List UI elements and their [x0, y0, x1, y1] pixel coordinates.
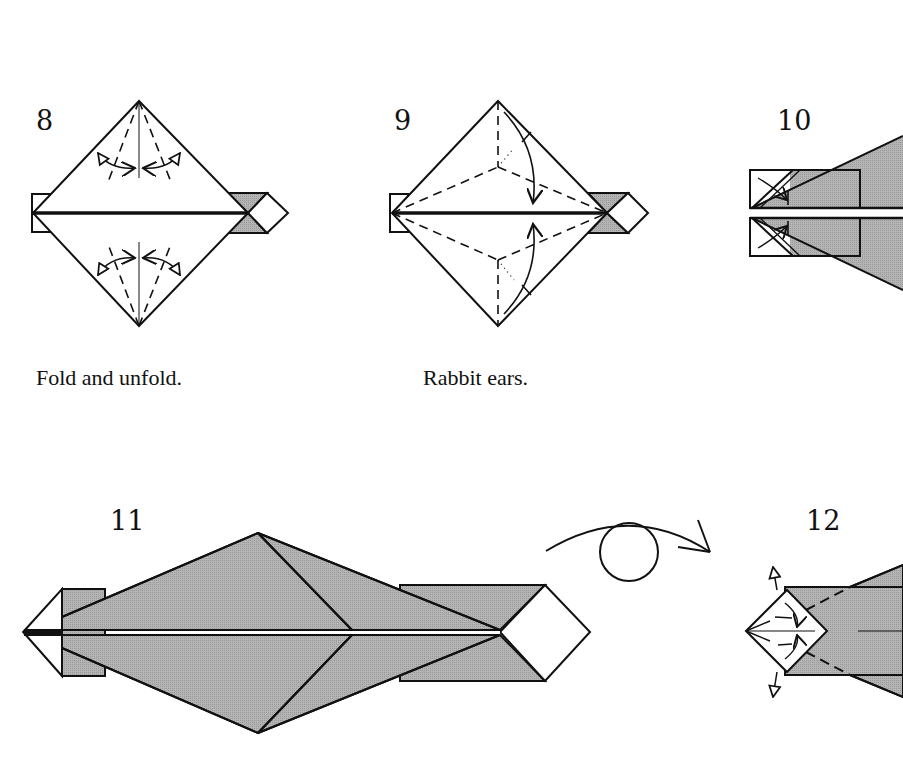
step-9-caption: Rabbit ears.	[423, 365, 528, 390]
step-11-diagram	[24, 533, 590, 733]
step-9-number: 9	[394, 105, 411, 136]
step-10-number: 10	[777, 105, 811, 136]
step-12-diagram	[746, 565, 903, 697]
step-8-caption: Fold and unfold.	[36, 365, 182, 390]
turn-over-icon	[546, 520, 710, 581]
step-8-number: 8	[36, 105, 53, 136]
step-12-number: 12	[806, 505, 840, 536]
step-9-diagram	[390, 101, 648, 326]
step-11-number: 11	[110, 505, 144, 536]
step-8-diagram	[32, 101, 288, 326]
step-10-diagram	[750, 136, 903, 290]
origami-diagram: 8 9	[0, 0, 903, 779]
